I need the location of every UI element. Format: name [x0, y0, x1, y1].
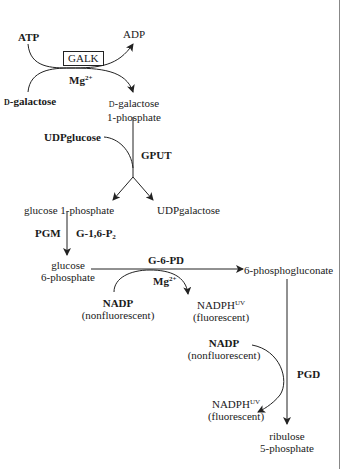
- nadph-fluorescent-label-1: NADPHUV(fluorescent): [190, 299, 252, 323]
- d-galactose-label: D-galactose: [4, 95, 56, 109]
- udpgalactose-label: UDPgalactose: [157, 204, 220, 216]
- nadph-fluorescent-label-2: NADPHUV(fluorescent): [205, 398, 267, 422]
- udpglucose-label: UDPglucose: [44, 131, 101, 143]
- to-udpgal-arrow: [133, 177, 153, 200]
- g6pd-enzyme-label: G-6-PD: [148, 254, 184, 266]
- page-edge-divider: [339, 0, 340, 469]
- glucose-6-phosphate-label: glucose6-phosphate: [38, 259, 98, 283]
- nadp-nonfluorescent-label-2: NADP(nonfluorescent): [186, 337, 262, 361]
- mg-ion-label-1: Mg2+: [69, 74, 92, 86]
- udpglucose-curve: [104, 137, 133, 168]
- ribulose-5-phosphate-label: ribulose5-phosphate: [257, 430, 317, 454]
- g16p2-cofactor-label: G-1,6-P2: [76, 227, 116, 239]
- pgd-enzyme-label: PGD: [297, 368, 320, 380]
- gput-enzyme-label: GPUT: [141, 149, 172, 161]
- nadp-nonfluorescent-label-1: NADP(nonfluorescent): [80, 297, 156, 321]
- galk-enzyme-box: GALK: [63, 51, 104, 66]
- adp-label: ADP: [123, 28, 145, 40]
- galactose-metabolism-diagram: ATP ADP GALK Mg2+ D-galactose D-galactos…: [0, 0, 341, 469]
- pgm-enzyme-label: PGM: [35, 227, 61, 239]
- nadp-to-nadph-arrow-1: [114, 270, 188, 294]
- atp-label: ATP: [18, 31, 39, 43]
- 6-phosphogluconate-label: 6-phosphogluconate: [244, 264, 333, 276]
- mg-ion-label-2: Mg2+: [153, 275, 176, 287]
- glucose-1-phosphate-label: glucose 1-phosphate: [24, 204, 114, 216]
- to-g1p-arrow: [113, 177, 133, 200]
- galactose-1-phosphate-label: D-galactose1-phosphate: [106, 97, 162, 123]
